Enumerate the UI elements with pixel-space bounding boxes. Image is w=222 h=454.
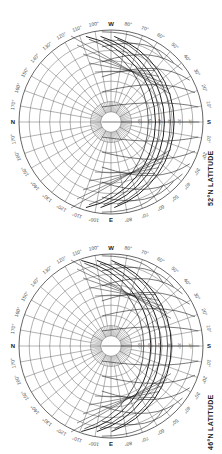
azimuth-label: 170° [9, 323, 17, 334]
latitude-label-52n: 52°N LATITUDE [207, 150, 214, 206]
azimuth-label: 30° [193, 391, 202, 401]
altitude-label: 60° [137, 343, 142, 349]
azimuth-label: 30° [193, 67, 202, 77]
altitude-label: 40° [157, 343, 162, 349]
altitude-label: 30° [167, 119, 172, 125]
azimuth-label: 120° [55, 30, 67, 40]
azimuth-label: 20° [201, 376, 209, 385]
azimuth-label: 170° [9, 358, 17, 369]
azimuth-label: 40° [183, 405, 192, 415]
azimuth-label: 30° [193, 291, 202, 301]
azimuth-label: 50° [170, 418, 180, 427]
azimuth-label: 130° [41, 40, 53, 51]
azimuth-label: 40° [183, 277, 192, 287]
altitude-label: 20° [177, 343, 182, 349]
azimuth-label: 20° [201, 83, 209, 92]
compass-east-label: E [109, 217, 113, 223]
azimuth-label: 160° [13, 82, 22, 94]
azimuth-label: 10° [206, 135, 213, 143]
sun-path-diagram-52n: WENS10°10°20°20°30°30°40°40°50°50°60°60°… [0, 0, 222, 227]
azimuth-label: 100° [88, 216, 99, 224]
azimuth-label: 140° [29, 52, 40, 64]
azimuth-label: 60° [156, 204, 166, 213]
azimuth-label: 170° [9, 134, 17, 145]
azimuth-label: 40° [183, 181, 192, 191]
azimuth-label: 140° [29, 404, 40, 416]
azimuth-label: 70° [141, 436, 150, 444]
azimuth-label: 10° [206, 100, 213, 108]
azimuth-label: 70° [141, 24, 150, 32]
altitude-label: 20° [177, 119, 182, 125]
azimuth-label: 140° [29, 276, 40, 288]
azimuth-label: 150° [19, 166, 29, 178]
compass-west-label: W [108, 21, 114, 27]
azimuth-label: 150° [19, 390, 29, 402]
azimuth-label: 160° [13, 374, 22, 386]
altitude-label: 60° [137, 119, 142, 125]
compass-south-label: S [207, 343, 211, 349]
azimuth-label: 60° [156, 428, 166, 437]
azimuth-label: 150° [19, 290, 29, 302]
azimuth-label: 110° [71, 248, 82, 257]
polar-chart-52n: WENS10°10°20°20°30°30°40°40°50°50°60°60°… [0, 0, 222, 227]
altitude-label: 10° [188, 119, 193, 125]
azimuth-label: 110° [71, 435, 82, 444]
azimuth-label: 40° [183, 53, 192, 63]
sun-path-diagram-46n: WENS10°10°20°20°30°30°40°40°50°50°60°60°… [0, 224, 222, 451]
compass-north-label: N [11, 343, 15, 349]
azimuth-label: 160° [13, 150, 22, 162]
azimuth-label: 130° [41, 264, 53, 275]
azimuth-label: 110° [71, 24, 82, 33]
azimuth-label: 70° [141, 248, 150, 256]
azimuth-label: 20° [201, 307, 209, 316]
azimuth-label: 50° [170, 265, 180, 274]
azimuth-label: 80° [124, 244, 132, 251]
azimuth-label: 80° [124, 217, 132, 224]
azimuth-label: 60° [156, 255, 166, 264]
altitude-label: 40° [157, 119, 162, 125]
compass-south-label: S [207, 119, 211, 125]
azimuth-label: 80° [124, 441, 132, 448]
azimuth-label: 10° [206, 359, 213, 367]
azimuth-label: 130° [41, 193, 53, 204]
altitude-label: 50° [147, 343, 152, 349]
altitude-label: 30° [167, 343, 172, 349]
azimuth-label: 70° [141, 212, 150, 220]
polar-chart-46n: WENS10°10°20°20°30°30°40°40°50°50°60°60°… [0, 224, 222, 454]
compass-north-label: N [11, 119, 15, 125]
azimuth-label: 100° [88, 20, 99, 28]
azimuth-label: 60° [156, 31, 166, 40]
azimuth-label: 140° [29, 180, 40, 192]
azimuth-label: 30° [193, 167, 202, 177]
azimuth-label: 50° [170, 41, 180, 50]
azimuth-label: 50° [170, 194, 180, 203]
azimuth-label: 120° [55, 427, 67, 437]
azimuth-label: 80° [124, 20, 132, 27]
azimuth-label: 170° [9, 99, 17, 110]
altitude-label: 10° [188, 343, 193, 349]
azimuth-label: 110° [71, 211, 82, 220]
altitude-label: 50° [147, 119, 152, 125]
compass-west-label: W [108, 245, 114, 251]
azimuth-label: 130° [41, 417, 53, 428]
azimuth-label: 150° [19, 66, 29, 78]
azimuth-label: 120° [55, 254, 67, 264]
compass-east-label: E [109, 441, 113, 447]
azimuth-label: 120° [55, 203, 67, 213]
azimuth-label: 100° [88, 440, 99, 448]
azimuth-label: 100° [88, 244, 99, 252]
azimuth-label: 160° [13, 306, 22, 318]
azimuth-label: 10° [206, 324, 213, 332]
latitude-label-46n: 46°N LATITUDE [207, 394, 214, 450]
